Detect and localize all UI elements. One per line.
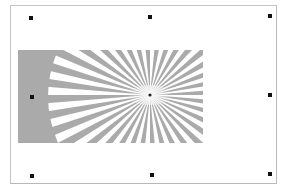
siemens-star-image[interactable]	[18, 50, 203, 143]
resize-handle-middle-left[interactable]	[30, 95, 34, 99]
resize-handle-top-center[interactable]	[148, 15, 152, 19]
resize-handle-top-right[interactable]	[268, 14, 272, 18]
resize-handle-top-left[interactable]	[29, 16, 33, 20]
resize-handle-bottom-right[interactable]	[268, 172, 272, 176]
resize-handle-bottom-center[interactable]	[150, 173, 154, 177]
resize-handle-middle-right[interactable]	[268, 93, 272, 97]
resize-handle-bottom-left[interactable]	[30, 174, 34, 178]
